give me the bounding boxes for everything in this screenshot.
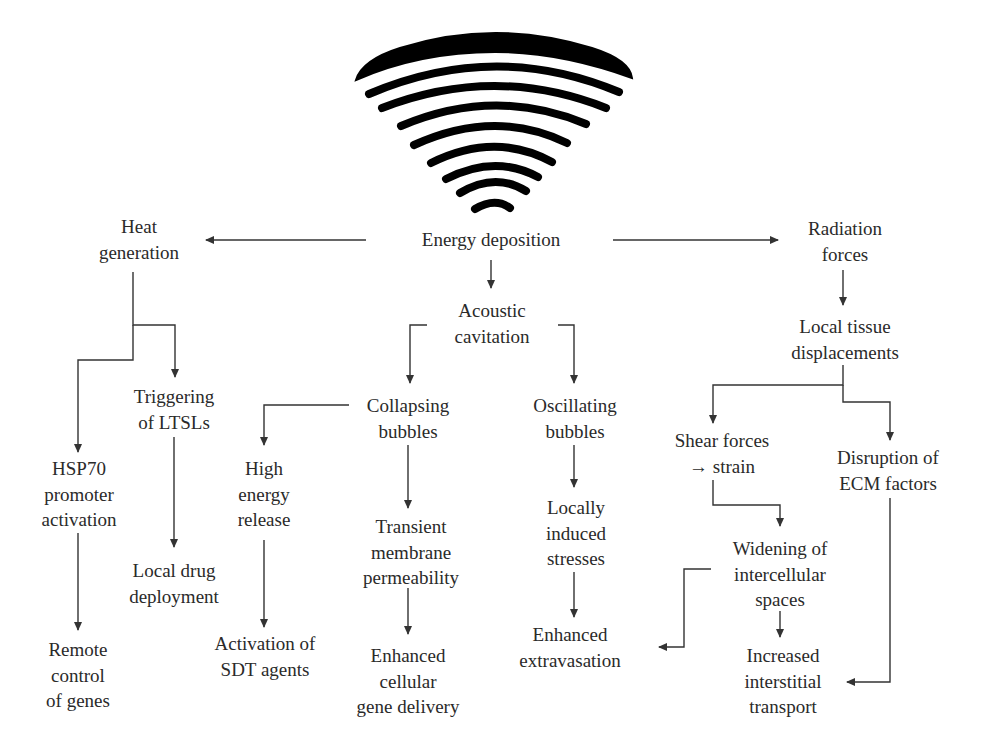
node-radiation-forces: Radiation forces [808,216,882,267]
edge-tissue-shear [713,365,843,423]
connector-layer [0,0,992,752]
node-enhanced-extravasation: Enhanced extravasation [519,622,620,673]
node-hsp70-activation: HSP70 promoter activation [42,456,117,533]
node-remote-control-genes: Remote control of genes [46,637,110,714]
node-acoustic-cavitation: Acoustic cavitation [455,298,530,349]
node-oscillating-bubbles: Oscillating bubbles [533,393,616,444]
ultrasound-wave-icon [356,33,632,209]
edge-disruption-transport [847,498,890,682]
node-local-drug-deployment: Local drug deployment [129,558,219,609]
node-local-tissue-displacements: Local tissue displacements [791,314,899,365]
edge-cavitation-oscillating [558,325,574,383]
edge-cavitation-collapsing [410,325,427,383]
diagram-canvas: Energy deposition Heat generation Radiat… [0,0,992,752]
node-increased-interstitial-transport: Increased interstitial transport [744,643,821,720]
edge-shear-widening [713,480,780,526]
edge-widening-extravasation [659,569,711,647]
node-triggering-ltsls: Triggering of LTSLs [134,384,215,435]
node-disruption-ecm-factors: Disruption of ECM factors [837,445,939,496]
edge-tissue-disruption [843,385,890,440]
edge-heat-hsp70 [78,325,133,452]
node-enhanced-gene-delivery: Enhanced cellular gene delivery [357,643,460,720]
edge-heat-triggering [133,272,175,377]
node-heat-generation: Heat generation [99,214,179,265]
edge-collapsing-highenergy [264,405,349,445]
node-activation-sdt-agents: Activation of SDT agents [215,631,316,682]
node-high-energy-release: High energy release [238,456,291,533]
node-transient-membrane-permeability: Transient membrane permeability [363,514,459,591]
node-locally-induced-stresses: Locally induced stresses [546,495,606,572]
node-shear-forces-strain: Shear forces → strain [675,428,769,479]
node-collapsing-bubbles: Collapsing bubbles [367,393,449,444]
node-widening-intercellular-spaces: Widening of intercellular spaces [733,536,828,613]
node-energy-deposition: Energy deposition [422,227,560,253]
